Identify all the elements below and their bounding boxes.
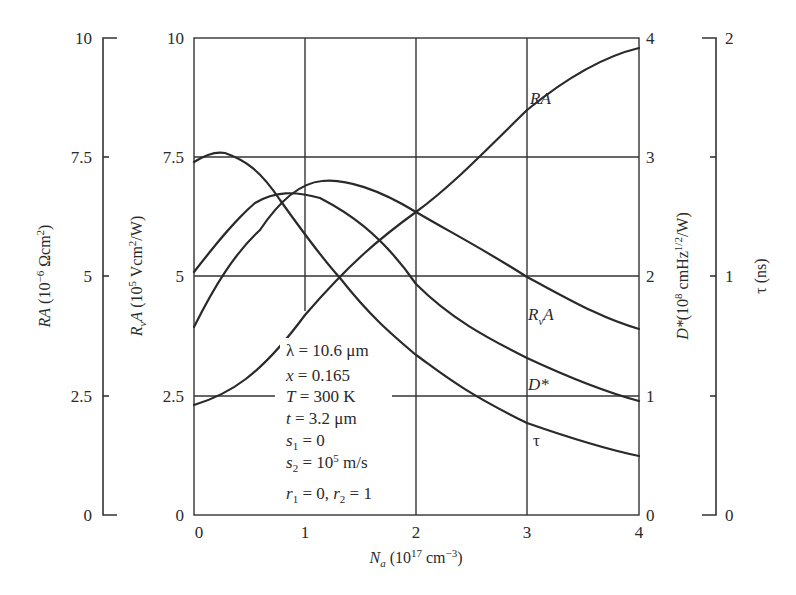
right-outer-axis-title: τ (ns)	[752, 258, 770, 293]
svg-text:2: 2	[646, 267, 655, 286]
plot-grid	[194, 38, 639, 515]
svg-text:1: 1	[646, 387, 655, 406]
left-outer-axis	[103, 38, 117, 515]
svg-text:1: 1	[301, 523, 310, 542]
svg-text:3: 3	[523, 523, 532, 542]
svg-text:5: 5	[84, 267, 93, 286]
left-inner-ticks: 10 7.5 5 2.5 0	[163, 29, 184, 525]
label-Dstar: D*	[527, 375, 549, 394]
label-RA: RA	[529, 89, 551, 108]
chart: 10 7.5 5 2.5 0 RA (10−6 Ωcm2) 10 7.5 5 2…	[0, 0, 796, 595]
svg-text:3: 3	[646, 148, 655, 167]
svg-text:4: 4	[646, 29, 655, 48]
svg-text:2: 2	[412, 523, 421, 542]
parameter-annotation: λ = 10.6 μm x = 0.165 T = 300 K t = 3.2 …	[280, 338, 392, 514]
svg-text:7.5: 7.5	[163, 148, 184, 167]
left-inner-axis-title: RvA (105 Vcm2/W)	[126, 216, 148, 337]
svg-text:5: 5	[176, 267, 185, 286]
svg-text:t = 3.2 μm: t = 3.2 μm	[286, 409, 357, 428]
svg-text:s1 = 0: s1 = 0	[286, 431, 325, 452]
label-tau: τ	[533, 431, 540, 450]
left-outer-axis-title: RA (10−6 Ωcm2)	[34, 225, 54, 329]
svg-text:2: 2	[725, 29, 734, 48]
right-outer-ticks: 2 1 0	[725, 29, 734, 525]
svg-text:10: 10	[167, 29, 184, 48]
left-outer-ticks: 10 7.5 5 2.5 0	[71, 29, 92, 525]
label-RvA: RvA	[527, 305, 554, 327]
right-inner-axis-title: D*(108 cmHz1/2/W)	[672, 212, 692, 341]
svg-text:0: 0	[725, 506, 734, 525]
x-axis-ticks: 0 1 2 3 4	[195, 523, 644, 542]
svg-text:7.5: 7.5	[71, 148, 92, 167]
svg-text:0: 0	[84, 506, 93, 525]
svg-text:2.5: 2.5	[71, 387, 92, 406]
x-axis-title: Na (1017 cm−3)	[368, 547, 462, 569]
svg-text:2.5: 2.5	[163, 387, 184, 406]
svg-text:s2 = 105 m/s: s2 = 105 m/s	[286, 452, 368, 474]
svg-text:4: 4	[635, 523, 644, 542]
svg-text:0: 0	[195, 523, 204, 542]
svg-text:x = 0.165: x = 0.165	[285, 366, 350, 385]
svg-text:1: 1	[725, 267, 734, 286]
right-inner-ticks: 4 3 2 1 0	[646, 29, 655, 525]
right-outer-axis	[702, 38, 716, 515]
svg-text:T = 300 K: T = 300 K	[286, 387, 356, 406]
svg-text:0: 0	[646, 506, 655, 525]
svg-text:0: 0	[176, 506, 185, 525]
svg-text:r1 = 0, r2 = 1: r1 = 0, r2 = 1	[286, 484, 372, 505]
svg-text:10: 10	[75, 29, 92, 48]
svg-text:λ = 10.6 μm: λ = 10.6 μm	[286, 341, 369, 360]
